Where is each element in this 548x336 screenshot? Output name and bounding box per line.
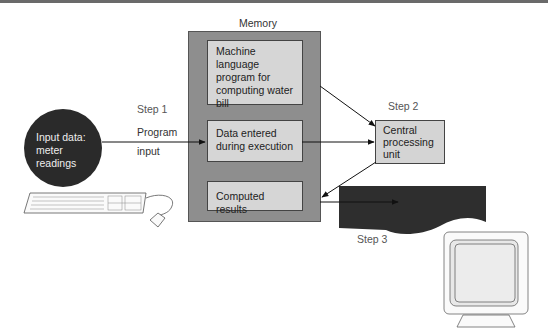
- output-document-shape: [339, 186, 486, 234]
- arrow-program-to-cpu: [320, 86, 375, 126]
- monitor-icon: [444, 232, 528, 327]
- mouse-icon: [146, 195, 173, 227]
- flow-arrows: [102, 86, 398, 202]
- diagram-graphics: [0, 0, 548, 336]
- keyboard-icon: [24, 193, 146, 213]
